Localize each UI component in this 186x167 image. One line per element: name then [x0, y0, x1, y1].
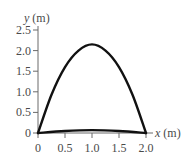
high-trajectory-curve: [38, 44, 146, 133]
x-ticks: 00.51.01.52.0: [35, 133, 154, 155]
series-group: [38, 44, 146, 133]
x-tick-label: 1.5: [112, 141, 127, 155]
y-tick-label: 2.5: [16, 23, 31, 37]
x-tick-label: 2.0: [139, 141, 154, 155]
y-tick-label: 1.5: [16, 64, 31, 78]
x-tick-label: 0: [35, 141, 41, 155]
trajectory-chart: 00.51.01.52.02.5 00.51.01.52.0 y (m) x (…: [0, 0, 186, 167]
x-tick-label: 0.5: [58, 141, 73, 155]
y-tick-label: 0.5: [16, 105, 31, 119]
y-tick-label: 2.0: [16, 44, 31, 58]
y-tick-label: 1.0: [16, 85, 31, 99]
x-axis-label: x (m): [154, 126, 181, 140]
x-tick-label: 1.0: [85, 141, 100, 155]
y-ticks: 00.51.01.52.02.5: [16, 23, 38, 140]
y-axis-label: y (m): [23, 11, 50, 25]
y-tick-label: 0: [25, 126, 31, 140]
